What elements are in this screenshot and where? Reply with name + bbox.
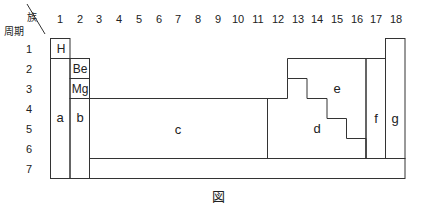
element-h: H (51, 41, 71, 57)
element-be: Be (70, 61, 90, 77)
region-f: f (366, 111, 386, 127)
header-diagonal (27, 4, 45, 34)
region-d: d (307, 121, 327, 137)
region-b: b (70, 110, 90, 126)
region-a: a (50, 110, 70, 126)
region-c: c (168, 122, 188, 138)
element-mg: Mg (70, 81, 90, 97)
region-g: g (385, 111, 405, 127)
figure-caption: 図 (208, 186, 228, 205)
region-e: e (327, 81, 347, 97)
periodic-table-outline (0, 0, 427, 214)
